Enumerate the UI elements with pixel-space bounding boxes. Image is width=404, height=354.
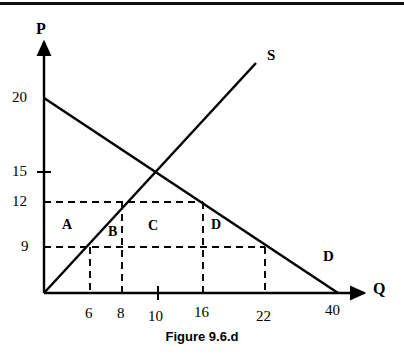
region-label-c: C <box>148 219 158 233</box>
region-label-a: A <box>62 218 72 232</box>
x-tick-label-16: 16 <box>194 305 209 320</box>
y-tick-label-15: 15 <box>12 164 27 179</box>
demand-curve <box>44 98 338 293</box>
demand-curve-label: D <box>323 249 334 264</box>
region-label-b: B <box>108 225 117 239</box>
figure-container: P Q 20 15 12 9 6 8 10 16 22 40 S D A B C… <box>0 0 404 354</box>
x-tick-label-40: 40 <box>325 303 340 318</box>
figure-caption: Figure 9.6.d <box>0 329 404 344</box>
y-axis-label: P <box>36 21 46 37</box>
y-tick-label-9: 9 <box>21 239 29 254</box>
x-tick-label-22: 22 <box>256 309 271 324</box>
x-tick-label-8: 8 <box>117 306 125 321</box>
x-axis-label: Q <box>373 281 385 297</box>
x-tick-label-6: 6 <box>85 306 93 321</box>
y-tick-label-20: 20 <box>12 90 27 105</box>
supply-demand-plot <box>0 0 404 354</box>
supply-curve-label: S <box>267 48 275 63</box>
y-tick-label-12: 12 <box>12 194 27 209</box>
region-label-d: D <box>211 218 221 232</box>
supply-curve <box>44 63 256 293</box>
x-tick-label-10: 10 <box>148 309 163 324</box>
